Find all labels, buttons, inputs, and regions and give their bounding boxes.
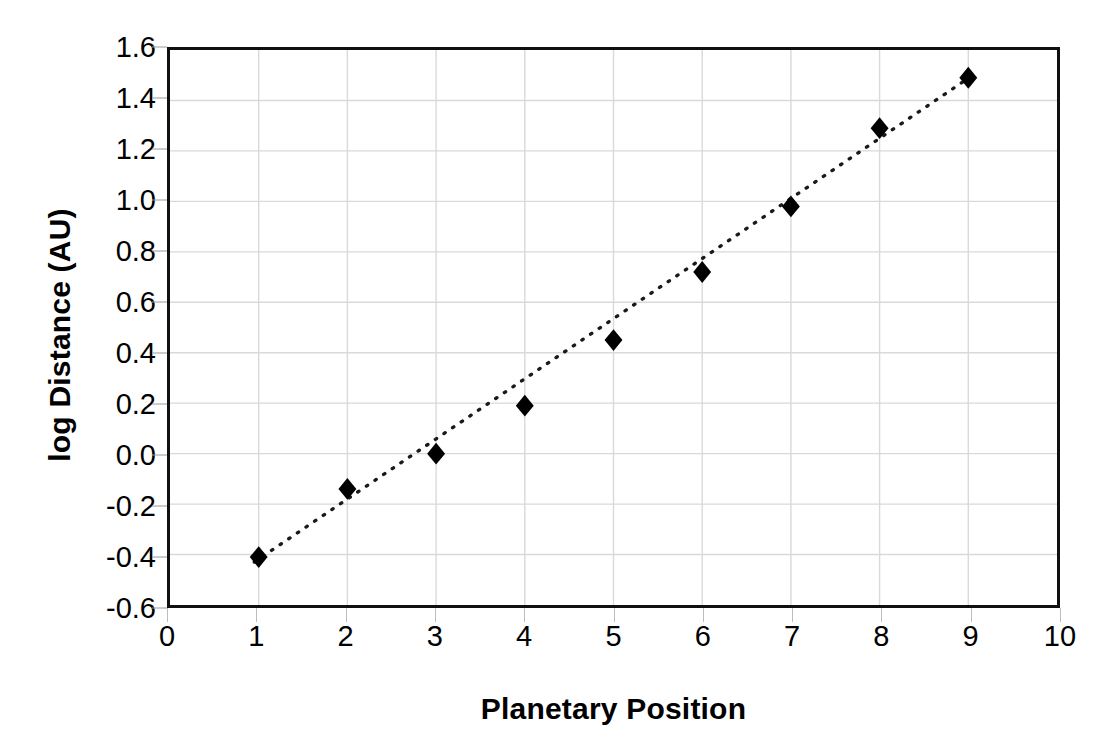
x-tick-mark — [167, 608, 168, 622]
x-tick-label: 2 — [301, 622, 391, 651]
y-tick-label: 1.6 — [16, 33, 156, 62]
data-point-marker — [338, 478, 356, 500]
x-tick-mark — [1060, 608, 1061, 622]
x-tick-mark — [971, 608, 972, 622]
x-tick-label: 3 — [390, 622, 480, 651]
data-point-marker — [959, 67, 977, 89]
x-axis-tick-labels: 012345678910 — [167, 622, 1060, 666]
x-tick-mark — [703, 608, 704, 622]
x-tick-mark — [792, 608, 793, 622]
data-point-marker — [605, 329, 623, 351]
y-tick-mark — [152, 455, 167, 456]
chart-container: log Distance (AU) 1.61.41.21.00.80.60.40… — [0, 0, 1111, 753]
y-tick-mark — [152, 302, 167, 303]
x-tick-label: 10 — [1015, 622, 1105, 651]
y-tick-mark — [152, 200, 167, 201]
plot-area — [167, 47, 1060, 608]
y-tick-label: 0.8 — [16, 237, 156, 266]
data-series-layer — [170, 50, 1057, 605]
x-tick-label: 5 — [569, 622, 659, 651]
y-tick-label: 0.6 — [16, 288, 156, 317]
y-tick-label: 1.0 — [16, 186, 156, 215]
data-point-marker — [516, 395, 534, 417]
y-tick-label: -0.4 — [16, 543, 156, 572]
y-axis-tick-labels: 1.61.41.21.00.80.60.40.20.0-0.2-0.4-0.6 — [10, 47, 156, 608]
x-tick-mark — [524, 608, 525, 622]
x-tick-label: 8 — [836, 622, 926, 651]
x-tick-label: 9 — [926, 622, 1016, 651]
y-tick-label: -0.2 — [16, 492, 156, 521]
y-tick-mark — [152, 608, 167, 609]
y-tick-mark — [152, 149, 167, 150]
y-tick-label: 1.4 — [16, 84, 156, 113]
y-tick-mark — [152, 404, 167, 405]
x-tick-label: 7 — [747, 622, 837, 651]
y-tick-mark — [152, 557, 167, 558]
y-tick-mark — [152, 506, 167, 507]
x-tick-label: 0 — [122, 622, 212, 651]
x-tick-label: 4 — [479, 622, 569, 651]
trendline — [254, 75, 972, 562]
x-tick-label: 6 — [658, 622, 748, 651]
x-tick-mark — [256, 608, 257, 622]
y-tick-label: 1.2 — [16, 135, 156, 164]
data-point-marker — [250, 546, 268, 568]
y-tick-mark — [152, 251, 167, 252]
y-tick-label: -0.6 — [16, 594, 156, 623]
x-tick-mark — [346, 608, 347, 622]
y-tick-mark — [152, 353, 167, 354]
y-tick-label: 0.4 — [16, 339, 156, 368]
y-tick-label: 0.0 — [16, 441, 156, 470]
x-tick-mark — [614, 608, 615, 622]
data-point-marker — [782, 196, 800, 218]
y-tick-label: 0.2 — [16, 390, 156, 419]
data-point-marker — [427, 443, 445, 465]
y-tick-mark — [152, 47, 167, 48]
x-tick-mark — [435, 608, 436, 622]
y-tick-mark — [152, 98, 167, 99]
x-axis-title: Planetary Position — [167, 692, 1060, 726]
x-tick-label: 1 — [211, 622, 301, 651]
x-tick-mark — [881, 608, 882, 622]
